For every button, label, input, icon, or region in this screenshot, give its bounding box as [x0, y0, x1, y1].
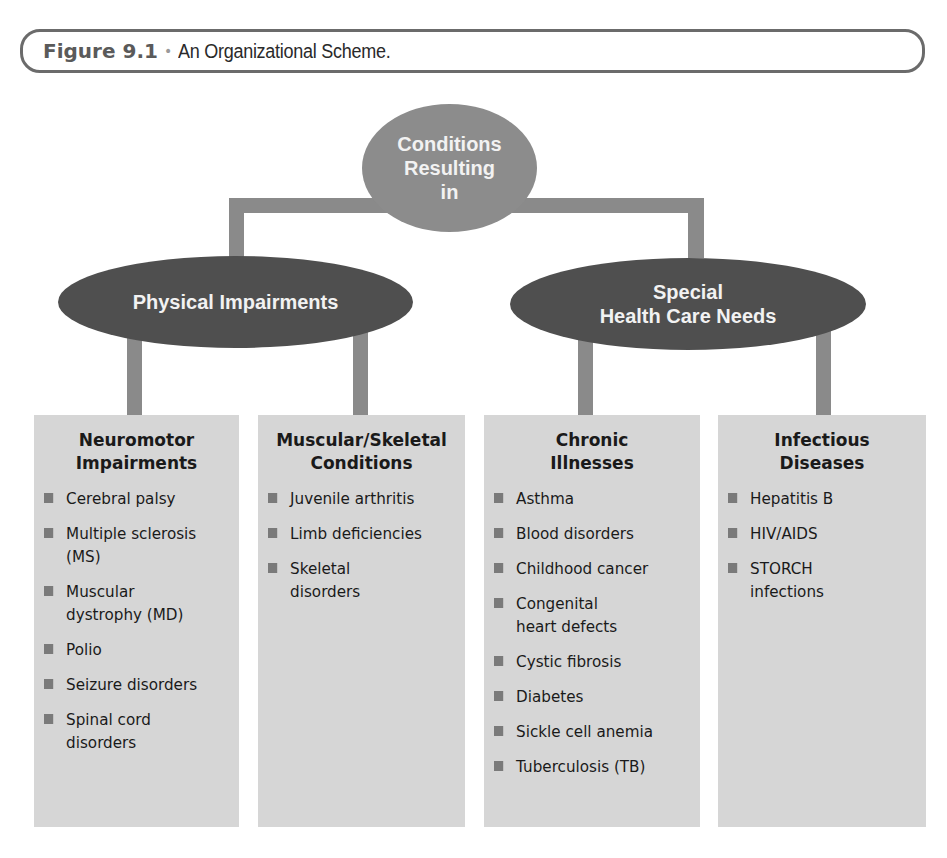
box-list: Asthma Blood disorders Childhood cancer … — [494, 487, 690, 778]
box-heading: Neuromotor Impairments — [44, 429, 229, 475]
square-bullet-icon — [268, 563, 277, 573]
list-item: Cerebral palsy — [44, 487, 214, 510]
list-item: Diabetes — [494, 685, 674, 708]
category-special-health-care-needs: Special Health Care Needs — [510, 258, 866, 350]
box-heading: Muscular/Skeletal Conditions — [268, 429, 455, 475]
list-item: Congenital heart defects — [494, 592, 674, 638]
square-bullet-icon — [494, 691, 503, 701]
list-item: Multiple sclerosis (MS) — [44, 522, 214, 568]
box-list: Cerebral palsy Multiple sclerosis (MS) M… — [44, 487, 229, 754]
square-bullet-icon — [728, 528, 737, 538]
box-list: Juvenile arthritis Limb deficiencies Ske… — [268, 487, 455, 603]
list-item: Cystic fibrosis — [494, 650, 674, 673]
connector-box2-stem — [353, 330, 368, 416]
square-bullet-icon — [268, 493, 277, 503]
square-bullet-icon — [728, 493, 737, 503]
list-item: Asthma — [494, 487, 674, 510]
figure-title: An Organizational Scheme. — [178, 40, 390, 63]
list-item: Muscular dystrophy (MD) — [44, 580, 214, 626]
root-node-label: Conditions Resulting in — [397, 132, 501, 204]
connector-right-vertical — [688, 198, 704, 258]
square-bullet-icon — [494, 598, 503, 608]
category-physical-impairments: Physical Impairments — [58, 256, 413, 348]
connector-box1-stem — [127, 330, 142, 416]
list-item: Limb deficiencies — [268, 522, 440, 545]
connector-box3-stem — [578, 330, 593, 416]
figure-label: Figure 9.1 — [43, 39, 158, 63]
square-bullet-icon — [494, 726, 503, 736]
list-item: HIV/AIDS — [728, 522, 901, 545]
list-item: Tuberculosis (TB) — [494, 755, 674, 778]
list-item: Blood disorders — [494, 522, 674, 545]
box-chronic-illnesses: Chronic Illnesses Asthma Blood disorders… — [484, 415, 700, 827]
square-bullet-icon — [268, 528, 277, 538]
square-bullet-icon — [44, 493, 53, 503]
list-item: Spinal cord disorders — [44, 708, 214, 754]
square-bullet-icon — [44, 528, 53, 538]
list-item: Sickle cell anemia — [494, 720, 674, 743]
square-bullet-icon — [494, 563, 503, 573]
square-bullet-icon — [728, 563, 737, 573]
square-bullet-icon — [44, 644, 53, 654]
box-muscular-skeletal-conditions: Muscular/Skeletal Conditions Juvenile ar… — [258, 415, 465, 827]
box-infectious-diseases: Infectious Diseases Hepatitis B HIV/AIDS… — [718, 415, 926, 827]
list-item: Juvenile arthritis — [268, 487, 440, 510]
box-list: Hepatitis B HIV/AIDS STORCH infections — [728, 487, 916, 603]
connector-left-vertical — [229, 198, 244, 258]
box-heading: Infectious Diseases — [728, 429, 916, 475]
square-bullet-icon — [44, 679, 53, 689]
caption-separator: • — [164, 43, 172, 59]
square-bullet-icon — [494, 656, 503, 666]
square-bullet-icon — [494, 493, 503, 503]
connector-box4-stem — [816, 330, 831, 416]
root-node: Conditions Resulting in — [362, 104, 537, 232]
box-neuromotor-impairments: Neuromotor Impairments Cerebral palsy Mu… — [34, 415, 239, 827]
category-label: Special Health Care Needs — [600, 280, 777, 328]
square-bullet-icon — [44, 586, 53, 596]
list-item: Skeletal disorders — [268, 557, 440, 603]
list-item: Hepatitis B — [728, 487, 901, 510]
category-label: Physical Impairments — [133, 290, 339, 314]
list-item: Seizure disorders — [44, 673, 214, 696]
list-item: STORCH infections — [728, 557, 901, 603]
square-bullet-icon — [494, 528, 503, 538]
box-heading: Chronic Illnesses — [494, 429, 690, 475]
square-bullet-icon — [44, 714, 53, 724]
square-bullet-icon — [494, 761, 503, 771]
list-item: Polio — [44, 638, 214, 661]
figure-caption: Figure 9.1 • An Organizational Scheme. — [20, 29, 925, 73]
list-item: Childhood cancer — [494, 557, 674, 580]
